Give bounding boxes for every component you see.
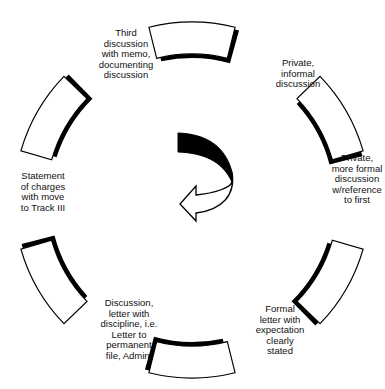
step-label: Third discussion with memo, documenting … [96,28,156,81]
step-label: Discussion, letter with discipline, i.e.… [94,298,164,361]
step-label: Private, informal discussion [258,58,338,90]
step-label: Formal letter with expectation clearly s… [245,304,315,357]
step-label: Private, more formal discussion w/refere… [322,153,385,206]
cycle-segment-upper-left [21,76,87,159]
cycle-segment-top [149,22,235,58]
step-label: Statement of charges with move to Track … [18,171,68,213]
cycle-segment-lower-left [21,240,87,323]
center-arrow-icon [178,133,233,221]
